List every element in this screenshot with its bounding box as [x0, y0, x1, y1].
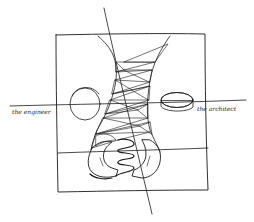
hatched-triangles	[92, 62, 150, 148]
square-frame	[56, 34, 208, 192]
label-engineer: the engineer	[12, 108, 52, 116]
clasped-hands	[88, 134, 160, 179]
lower-horizontal-line	[58, 148, 208, 153]
illustration: the engineer the architect	[0, 0, 254, 222]
label-architect: the architect	[197, 105, 237, 112]
diagonal-axis-line	[104, 8, 152, 214]
